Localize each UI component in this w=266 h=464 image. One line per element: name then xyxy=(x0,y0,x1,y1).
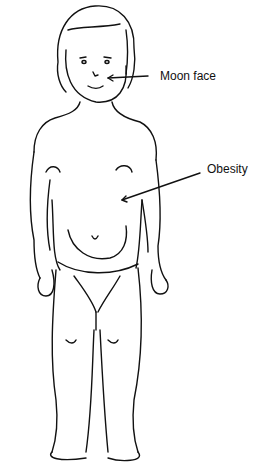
moon-face-leader-line xyxy=(108,76,148,78)
child-figure-drawing xyxy=(0,0,266,464)
left-leg xyxy=(52,270,57,452)
obesity-leader-line xyxy=(122,173,200,200)
right-arm xyxy=(156,160,166,280)
label-moon-face: Moon face xyxy=(160,69,216,83)
left-arm xyxy=(30,152,40,278)
right-leg xyxy=(133,268,141,452)
label-obesity: Obesity xyxy=(207,162,248,176)
